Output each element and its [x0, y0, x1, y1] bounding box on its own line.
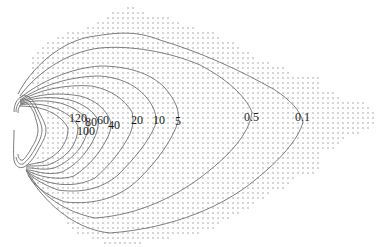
contour-label-40: 40	[108, 119, 120, 131]
contour-label-0-1: 0.1	[295, 111, 310, 123]
contour-plot-canvas	[0, 0, 379, 247]
contour-label-10: 10	[153, 114, 165, 126]
contour-line-0-5	[20, 47, 252, 218]
contour-line-0-1	[18, 33, 303, 233]
contour-label-0-5: 0.5	[244, 111, 259, 123]
contour-label-80: 80	[85, 116, 97, 128]
contour-plot: 120 100 80 60 40 20 10 5 0.5 0.1	[0, 0, 379, 247]
contour-label-20: 20	[131, 114, 143, 126]
contour-line-120	[19, 106, 68, 166]
contour-line-source-inner	[18, 103, 38, 160]
contour-label-5: 5	[175, 115, 181, 127]
contour-line-5	[20, 66, 178, 203]
